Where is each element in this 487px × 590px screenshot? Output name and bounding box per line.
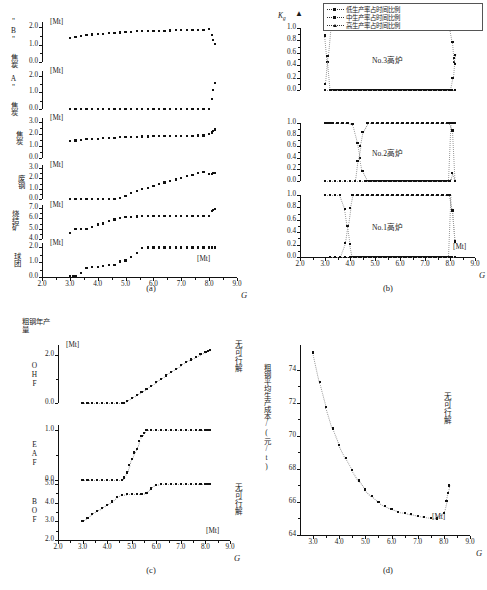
data-point <box>130 192 132 194</box>
data-point <box>131 397 133 399</box>
data-point <box>130 136 132 138</box>
data-point <box>369 180 371 182</box>
data-point <box>111 479 113 481</box>
data-point <box>163 246 165 248</box>
data-point <box>158 135 160 137</box>
data-point <box>96 402 98 404</box>
y-tick <box>297 195 300 196</box>
data-point <box>454 180 456 182</box>
data-point <box>208 215 210 217</box>
data-point <box>86 479 88 481</box>
y-unit-label: [Mt] <box>50 161 63 169</box>
data-point <box>409 256 411 258</box>
x-tick-minor <box>169 541 170 543</box>
x-tick-minor <box>95 541 96 543</box>
data-point <box>202 29 204 31</box>
data-point <box>371 194 373 196</box>
x-tick-minor <box>144 541 145 543</box>
data-point <box>141 30 143 32</box>
data-point <box>141 188 143 190</box>
data-point <box>344 208 346 210</box>
data-point <box>175 429 177 431</box>
data-point <box>444 89 446 91</box>
data-point <box>191 246 193 248</box>
y-tick-minor <box>40 152 42 153</box>
data-point <box>356 142 358 144</box>
data-point <box>389 180 391 182</box>
data-point <box>96 510 98 512</box>
y-tick-label: 2.0 <box>16 243 38 250</box>
data-point <box>185 483 187 485</box>
y-axis-line <box>42 165 43 199</box>
data-point <box>366 194 368 196</box>
data-point <box>369 89 371 91</box>
data-point <box>116 496 118 498</box>
data-point <box>426 122 428 124</box>
y-tick-minor <box>298 164 300 165</box>
data-point <box>429 180 431 182</box>
data-point <box>80 139 82 141</box>
x-tick-minor <box>112 278 113 280</box>
y-tick-minor <box>298 175 300 176</box>
square-marker-icon <box>333 8 336 11</box>
data-point <box>108 137 110 139</box>
data-point <box>140 391 142 393</box>
data-point <box>351 469 353 471</box>
data-point <box>113 137 115 139</box>
data-point <box>329 180 331 182</box>
x-tick-minor <box>167 278 168 280</box>
data-point <box>85 198 87 200</box>
data-point <box>334 194 336 196</box>
data-point <box>136 136 138 138</box>
data-point <box>131 458 133 460</box>
y-tick-minor <box>40 101 42 102</box>
x-tick-label: 4.0 <box>98 544 116 551</box>
y-axis-line <box>300 195 301 257</box>
data-point <box>185 361 187 363</box>
data-point <box>158 183 160 185</box>
x-tick-minor <box>70 541 71 543</box>
data-point <box>102 198 104 200</box>
data-point <box>141 215 143 217</box>
data-point <box>131 493 133 495</box>
x-tick-label: 5.0 <box>366 261 384 268</box>
data-point <box>152 246 154 248</box>
data-point <box>74 139 76 141</box>
y-tick-minor <box>298 71 300 72</box>
x-tick-label: 9.0 <box>221 544 239 551</box>
x-tick-label: 5.0 <box>123 544 141 551</box>
data-point <box>439 256 441 258</box>
data-point <box>399 180 401 182</box>
series-guide <box>311 352 319 382</box>
y-tick <box>297 123 300 124</box>
data-point <box>152 30 154 32</box>
data-point <box>191 135 193 137</box>
data-point <box>379 180 381 182</box>
x-tick-minor <box>352 536 353 538</box>
data-point <box>339 194 341 196</box>
y-axis-label: 球团 <box>12 252 20 266</box>
data-point <box>86 517 88 519</box>
x-tick-label: 2.0 <box>33 281 51 288</box>
data-point <box>384 89 386 91</box>
data-point <box>106 504 108 506</box>
data-point <box>324 89 326 91</box>
x-axis-name: G <box>234 553 240 563</box>
data-point <box>175 29 177 31</box>
y-tick <box>39 92 42 93</box>
data-point <box>143 432 145 434</box>
data-point <box>136 448 138 450</box>
data-point <box>169 135 171 137</box>
data-point <box>74 108 76 110</box>
data-point <box>169 215 171 217</box>
data-point <box>91 108 93 110</box>
data-point <box>208 28 210 30</box>
data-point <box>136 252 138 254</box>
data-point <box>394 89 396 91</box>
y-tick-minor <box>298 59 300 60</box>
data-point <box>429 89 431 91</box>
data-point <box>338 444 340 446</box>
data-point <box>113 108 115 110</box>
data-point <box>85 108 87 110</box>
data-point <box>453 57 455 59</box>
